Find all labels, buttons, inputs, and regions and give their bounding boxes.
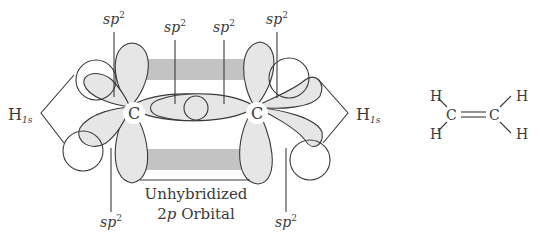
struct-h-top-right: H — [516, 88, 528, 104]
ethylene-structural-formula: H H C C H H — [430, 88, 528, 142]
h1s-left-bracket — [41, 75, 74, 143]
h1s-circle-bottom-right — [290, 140, 330, 180]
carbon-left-label: C — [128, 104, 140, 123]
h1s-label-left: H1s — [8, 105, 33, 125]
struct-c-left: C — [446, 107, 457, 123]
sp2-label-bottom-right: sp2 — [275, 213, 297, 230]
p-orbital-bottom-bar — [137, 149, 252, 170]
sp2-label-top-left: sp2 — [103, 10, 125, 27]
p-orbital-top-bar — [137, 59, 252, 80]
bond-top-right — [500, 96, 511, 107]
ethylene-orbital-diagram: C C sp2 sp2 sp2 sp2 sp2 sp2 H1s H1s Unhy… — [0, 0, 541, 240]
sp2-label-top-center-left: sp2 — [164, 18, 186, 35]
carbon-right-label: C — [251, 104, 263, 123]
struct-c-right: C — [489, 107, 500, 123]
struct-h-top-left: H — [430, 88, 442, 104]
h1s-label-right: H1s — [356, 105, 381, 125]
sp2-label-top-center-right: sp2 — [213, 18, 235, 35]
unhybridized-label-line2: 2p Orbital — [157, 205, 235, 223]
struct-h-bottom-right: H — [516, 126, 528, 142]
bond-bottom-right — [500, 122, 511, 133]
sp2-label-top-right: sp2 — [266, 10, 288, 27]
unhybridized-label-line1: Unhybridized — [145, 185, 248, 203]
sp2-label-bottom-left: sp2 — [100, 213, 122, 230]
